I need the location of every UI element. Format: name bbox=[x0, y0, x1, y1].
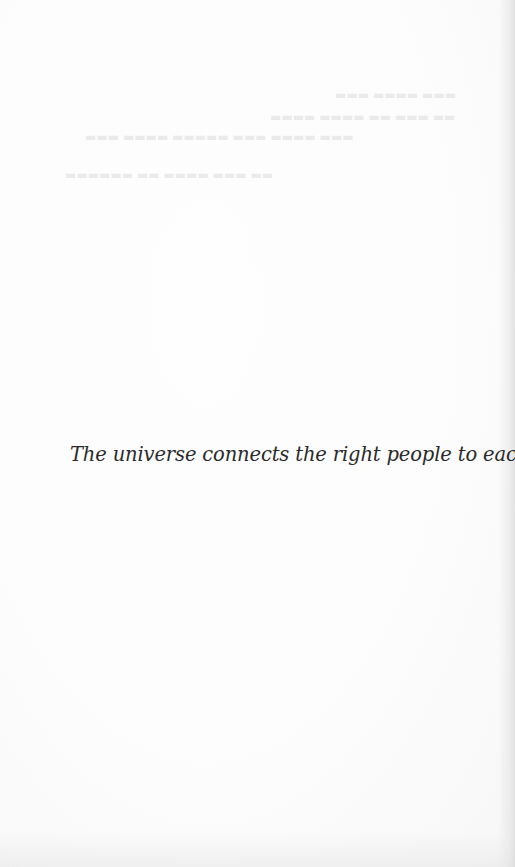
bleed-through-text: ▬▬ ▬▬▬ ▬▬▬▬ ▬▬ ▬▬▬▬▬▬ bbox=[65, 168, 273, 182]
book-page: ▬▬▬ ▬▬▬▬ ▬▬▬ ▬▬ ▬▬▬ ▬▬ ▬▬▬▬ ▬▬▬▬ ▬▬▬ ▬▬▬… bbox=[0, 0, 515, 867]
quote-text: The universe connects the right people t… bbox=[70, 443, 510, 467]
bleed-through-text: ▬▬▬ ▬▬▬▬ ▬▬▬ bbox=[335, 88, 456, 102]
bleed-through-text: ▬▬ ▬▬▬ ▬▬ ▬▬▬▬ ▬▬▬▬ bbox=[270, 110, 455, 124]
bleed-through-text: ▬▬▬ ▬▬▬▬ ▬▬▬ ▬▬▬▬▬ ▬▬▬▬ ▬▬▬ bbox=[85, 130, 354, 144]
